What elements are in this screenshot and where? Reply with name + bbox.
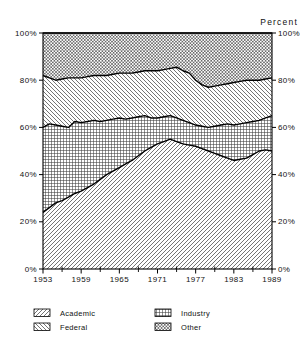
legend-label-industry: Industry bbox=[181, 309, 210, 318]
x-axis-label: 1965 bbox=[110, 275, 130, 284]
legend-label-academic: Academic bbox=[60, 309, 95, 318]
legend-label-federal: Federal bbox=[60, 323, 88, 332]
x-axis-label: 1953 bbox=[33, 275, 53, 284]
chart-page: 0%0%20%20%40%40%60%60%80%80%100%100%1953… bbox=[0, 0, 308, 353]
y-axis-label-right: 80% bbox=[278, 76, 295, 85]
legend-swatch-federal-icon bbox=[34, 323, 50, 331]
legend-item-other: Other bbox=[155, 323, 201, 332]
y-axis-title: Percent bbox=[260, 17, 298, 27]
legend-swatch-other-icon bbox=[155, 323, 171, 331]
y-axis-label-left: 0% bbox=[25, 265, 37, 274]
legend-swatch-academic-icon bbox=[34, 309, 50, 317]
stacked-area-chart: 0%0%20%20%40%40%60%60%80%80%100%100%1953… bbox=[0, 0, 308, 353]
x-axis-label: 1977 bbox=[186, 275, 206, 284]
legend-swatch-industry-icon bbox=[155, 309, 171, 317]
legend-item-federal: Federal bbox=[34, 323, 88, 332]
x-axis-label: 1989 bbox=[262, 275, 282, 284]
y-axis-label-left: 80% bbox=[20, 76, 37, 85]
legend: Academic Federal Industry Other bbox=[34, 309, 210, 332]
x-axis-label: 1971 bbox=[148, 275, 168, 284]
x-axis-label: 1959 bbox=[71, 275, 91, 284]
plot-areas bbox=[43, 33, 272, 269]
y-axis-label-right: 0% bbox=[278, 265, 290, 274]
y-axis-label-right: 20% bbox=[278, 217, 295, 226]
y-axis-label-left: 100% bbox=[15, 29, 37, 38]
y-axis-label-left: 60% bbox=[20, 123, 37, 132]
x-axis-label: 1983 bbox=[224, 275, 244, 284]
y-axis-label-right: 100% bbox=[278, 29, 300, 38]
legend-label-other: Other bbox=[181, 323, 201, 332]
y-axis-label-left: 40% bbox=[20, 170, 37, 179]
legend-item-industry: Industry bbox=[155, 309, 210, 318]
y-axis-label-right: 60% bbox=[278, 123, 295, 132]
y-axis-label-left: 20% bbox=[20, 217, 37, 226]
legend-item-academic: Academic bbox=[34, 309, 95, 318]
y-axis-label-right: 40% bbox=[278, 170, 295, 179]
